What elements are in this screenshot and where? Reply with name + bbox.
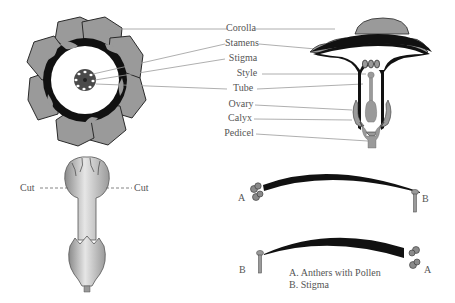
pedicel-section xyxy=(362,126,380,148)
label-corolla: Corolla xyxy=(226,22,256,34)
cut-label-left: Cut xyxy=(20,182,34,194)
label-calyx: Calyx xyxy=(228,112,252,124)
label-ovary: Ovary xyxy=(229,98,254,110)
marker-a-bottom: A xyxy=(424,264,431,276)
label-pedicel: Pedicel xyxy=(224,127,253,139)
cut-label-right: Cut xyxy=(134,182,148,194)
label-stigma: Stigma xyxy=(229,52,257,64)
legend-item-a: A. Anthers with Pollen xyxy=(289,267,381,279)
marker-b-bottom: B xyxy=(239,264,246,276)
top-view-flower xyxy=(27,17,146,146)
pollination-top xyxy=(251,174,421,212)
stigma-top xyxy=(412,189,419,212)
marker-a-top: A xyxy=(238,192,245,204)
marker-b-top: B xyxy=(422,193,429,205)
side-view-flower xyxy=(40,157,132,292)
stigma-bottom xyxy=(257,250,264,273)
label-style: Style xyxy=(237,67,258,79)
stamens-section xyxy=(362,60,379,68)
section-view-flower xyxy=(310,18,432,148)
legend-item-b: B. Stigma xyxy=(289,279,329,291)
label-tube: Tube xyxy=(233,82,253,94)
pistil xyxy=(365,72,376,122)
label-stamens: Stamens xyxy=(225,37,259,49)
